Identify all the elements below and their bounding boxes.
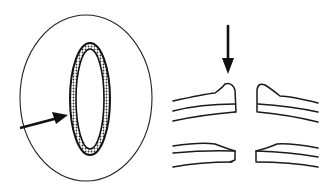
lower-left-layers: [173, 143, 235, 167]
arrow-icon-left: [20, 112, 68, 128]
upper-right-layers: [257, 84, 318, 122]
diagram-svg: [0, 0, 333, 186]
arrow-icon-down: [222, 26, 234, 74]
upper-left-layers: [173, 84, 236, 121]
right-panel: [173, 26, 318, 167]
diagram-canvas: [0, 0, 333, 186]
left-panel: [20, 15, 152, 181]
inner-ring-inner-edge: [76, 49, 104, 149]
lower-right-layers: [256, 144, 318, 167]
